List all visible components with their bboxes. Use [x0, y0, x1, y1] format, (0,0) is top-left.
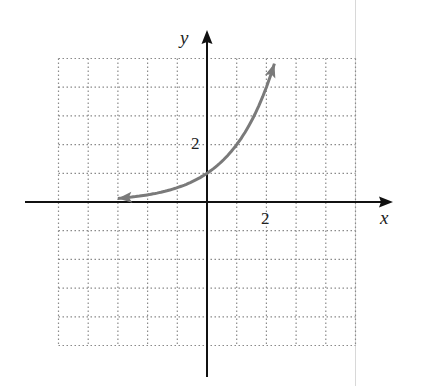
x-axis-arrow-icon — [379, 197, 393, 208]
x-axis-label: x — [380, 208, 388, 227]
y-axis-arrow-icon — [202, 30, 213, 44]
axes — [25, 30, 393, 377]
y-tick-label-2: 2 — [191, 135, 200, 152]
y-axis-label: y — [180, 28, 188, 47]
chart-plot — [0, 0, 423, 386]
exponential-curve — [118, 64, 275, 199]
x-tick-label-2: 2 — [261, 210, 270, 227]
